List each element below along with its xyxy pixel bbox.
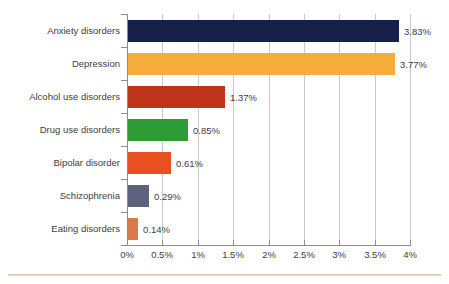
value-label-text: 0.61% <box>176 158 203 169</box>
x-axis-tick <box>375 240 376 246</box>
category-label-text: Schizophrenia <box>60 190 120 201</box>
x-axis-tick-label-text: 1% <box>191 249 205 260</box>
category-label-anxiety-disorders: Anxiety disorders <box>0 26 120 36</box>
x-axis-tick-label-text: 0.5% <box>151 249 173 260</box>
x-axis-tick-label-4: 2% <box>249 250 289 260</box>
category-label-text: Anxiety disorders <box>47 25 120 36</box>
value-label-text: 3.77% <box>400 59 427 70</box>
x-axis-tick <box>127 240 128 246</box>
category-label-eating-disorders: Eating disorders <box>0 224 120 234</box>
value-label-eating-disorders: 0.14% <box>143 225 170 235</box>
x-axis-tick <box>410 240 411 246</box>
bar-depression <box>128 53 395 75</box>
gridline-3 <box>339 14 340 245</box>
x-axis-tick <box>233 240 234 246</box>
gridline-3.5 <box>375 14 376 245</box>
value-label-schizophrenia: 0.29% <box>154 192 181 202</box>
value-label-anxiety-disorders: 3.83% <box>404 27 431 37</box>
x-axis-tick-label-3: 1.5% <box>213 250 253 260</box>
x-axis-tick <box>198 240 199 246</box>
y-axis-tick <box>121 146 127 147</box>
y-axis-tick <box>121 47 127 48</box>
x-axis-tick-label-text: 1.5% <box>222 249 244 260</box>
category-label-alcohol-use-disorders: Alcohol use disorders <box>0 92 120 102</box>
category-label-text: Drug use disorders <box>40 124 120 135</box>
y-axis-tick <box>121 80 127 81</box>
value-label-text: 0.29% <box>154 191 181 202</box>
gridline-2.5 <box>304 14 305 245</box>
category-label-bipolar-disorder: Bipolar disorder <box>0 158 120 168</box>
value-label-text: 0.85% <box>193 125 220 136</box>
category-label-depression: Depression <box>0 59 120 69</box>
y-axis-tick <box>121 113 127 114</box>
value-label-alcohol-use-disorders: 1.37% <box>230 93 257 103</box>
x-axis-tick-label-5: 2.5% <box>284 250 324 260</box>
category-label-text: Bipolar disorder <box>53 157 120 168</box>
x-axis-tick-label-text: 3% <box>332 249 346 260</box>
gridline-1.5 <box>233 14 234 245</box>
x-axis-tick <box>162 240 163 246</box>
y-axis-tick <box>121 14 127 15</box>
value-label-text: 1.37% <box>230 92 257 103</box>
bar-bipolar-disorder <box>128 152 171 174</box>
x-axis-tick-label-6: 3% <box>319 250 359 260</box>
x-axis-tick-label-text: 2.5% <box>293 249 315 260</box>
x-axis-tick-label-2: 1% <box>178 250 218 260</box>
bar-drug-use-disorders <box>128 119 188 141</box>
bar-eating-disorders <box>128 218 138 240</box>
category-label-drug-use-disorders: Drug use disorders <box>0 125 120 135</box>
bar-schizophrenia <box>128 185 149 207</box>
x-axis-tick-label-text: 4% <box>403 249 417 260</box>
bar-alcohol-use-disorders <box>128 86 225 108</box>
x-axis-tick-label-text: 3.5% <box>364 249 386 260</box>
y-axis-tick <box>121 179 127 180</box>
x-axis-tick <box>304 240 305 246</box>
x-axis-tick-label-1: 0.5% <box>142 250 182 260</box>
y-axis-tick <box>121 212 127 213</box>
category-label-text: Eating disorders <box>51 223 120 234</box>
gridline-2 <box>269 14 270 245</box>
category-label-text: Depression <box>72 58 120 69</box>
bar-anxiety-disorders <box>128 20 399 42</box>
value-label-drug-use-disorders: 0.85% <box>193 126 220 136</box>
value-label-text: 3.83% <box>404 26 431 37</box>
bottom-accent-rule <box>8 274 441 276</box>
category-label-text: Alcohol use disorders <box>29 91 120 102</box>
x-axis-tick-label-8: 4% <box>390 250 430 260</box>
x-axis-tick-label-0: 0% <box>107 250 147 260</box>
x-axis-tick <box>269 240 270 246</box>
x-axis-tick-label-text: 0% <box>120 249 134 260</box>
x-axis-tick-label-7: 3.5% <box>355 250 395 260</box>
x-axis-tick-label-text: 2% <box>262 249 276 260</box>
bar-chart: Anxiety disorders 3.83% Depression 3.77%… <box>0 0 449 284</box>
value-label-text: 0.14% <box>143 224 170 235</box>
value-label-depression: 3.77% <box>400 60 427 70</box>
value-label-bipolar-disorder: 0.61% <box>176 159 203 169</box>
x-axis-tick <box>339 240 340 246</box>
gridline-4 <box>410 14 411 245</box>
category-label-schizophrenia: Schizophrenia <box>0 191 120 201</box>
